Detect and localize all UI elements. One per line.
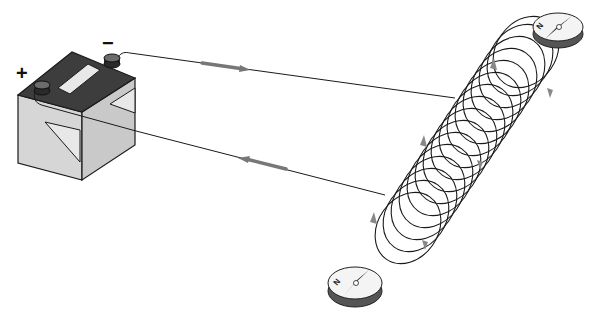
top-wire	[118, 52, 455, 98]
arrow-right-icon	[202, 63, 250, 72]
positive-terminal	[34, 81, 50, 95]
positive-sign: +	[16, 62, 28, 85]
arrow-left-icon	[238, 156, 286, 169]
negative-sign: −	[102, 32, 114, 55]
solenoid-diagram: N N	[0, 0, 602, 333]
current-arrows	[202, 63, 286, 169]
compass-top: N	[533, 13, 583, 48]
negative-terminal	[104, 54, 120, 68]
compass-bottom: N	[328, 267, 382, 307]
battery	[18, 52, 135, 180]
